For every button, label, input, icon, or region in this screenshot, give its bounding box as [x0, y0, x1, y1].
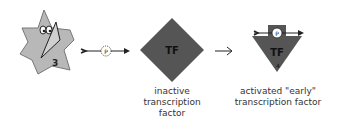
inactive-tf-label: TF: [165, 45, 179, 56]
active-phosphate-label: P: [275, 30, 279, 37]
inactive-tf-caption: inactive transcription factor: [130, 86, 214, 119]
kinase-number: 3: [52, 58, 58, 68]
inactive-tf-diamond: TF: [140, 18, 204, 82]
active-tf-number: 4: [276, 62, 280, 69]
active-tf-caption: activated "early" transcription factor: [232, 86, 324, 108]
phosphorylation-arrow: P: [81, 46, 130, 56]
caption-line: transcription factor: [130, 97, 214, 119]
caption-line: activated "early": [232, 86, 324, 97]
active-tf-triangle: P TF 4: [252, 25, 304, 72]
phosphate-label: P: [104, 48, 108, 55]
active-tf-label: TF: [270, 47, 284, 58]
caption-line: inactive: [130, 86, 214, 97]
activation-arrow: [215, 47, 232, 55]
kinase-star-icon: 3: [20, 10, 74, 74]
caption-line: transcription factor: [232, 97, 324, 108]
